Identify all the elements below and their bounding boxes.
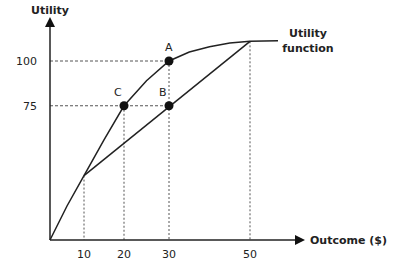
x-tick-label: 30 [162,248,176,261]
x-tick-label: 20 [117,248,131,261]
point-label-a: A [165,41,173,54]
y-axis-arrow-icon [45,17,55,27]
point-label-b: B [159,86,167,99]
point-label-c: C [114,86,122,99]
x-axis-arrow-icon [295,235,305,245]
x-axis-label: Outcome ($) [310,234,387,247]
curve-label-line: function [282,42,333,55]
y-tick-label: 100 [16,55,37,68]
y-tick-label: 75 [23,100,37,113]
point-c [120,101,129,110]
x-tick-label: 50 [243,248,257,261]
y-axis-label: Utility [31,4,69,17]
utility-chart: ABC1020305075100UtilityOutcome ($)Utilit… [0,0,396,276]
point-a [165,57,174,66]
x-tick-label: 10 [77,248,91,261]
curve-label-line: Utility [289,27,327,40]
point-b [165,101,174,110]
utility-function-curve [50,41,278,240]
